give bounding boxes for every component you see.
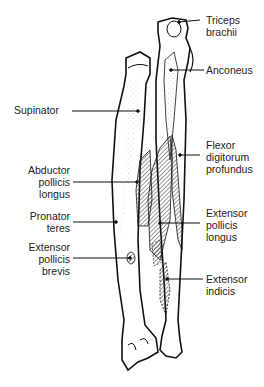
label-line: profundus bbox=[206, 163, 253, 175]
label-extensor-indicis: Extensor indicis bbox=[206, 273, 247, 297]
label-line: longus bbox=[28, 188, 70, 200]
label-line: Flexor bbox=[206, 139, 253, 151]
label-line: Supinator bbox=[14, 104, 59, 116]
label-line: Extensor bbox=[206, 207, 247, 219]
label-line: longus bbox=[206, 231, 247, 243]
label-extensor-pollicis-longus: Extensor pollicis longus bbox=[206, 207, 247, 243]
label-line: teres bbox=[30, 222, 70, 234]
label-line: Anconeus bbox=[206, 64, 253, 76]
label-abductor-pollicis-longus: Abductor pollicis longus bbox=[28, 164, 70, 200]
label-line: brevis bbox=[29, 265, 70, 277]
label-line: indicis bbox=[206, 285, 247, 297]
label-pronator-teres: Pronator teres bbox=[30, 210, 70, 234]
label-anconeus: Anconeus bbox=[206, 64, 253, 76]
label-line: digitorum bbox=[206, 151, 253, 163]
label-line: Extensor bbox=[29, 241, 70, 253]
label-triceps-brachii: Triceps brachii bbox=[206, 14, 240, 38]
label-line: pollicis bbox=[29, 253, 70, 265]
label-line: brachii bbox=[206, 26, 240, 38]
label-supinator: Supinator bbox=[14, 104, 59, 116]
label-flexor-digitorum-profundus: Flexor digitorum profundus bbox=[206, 139, 253, 175]
label-line: Pronator bbox=[30, 210, 70, 222]
label-line: Abductor bbox=[28, 164, 70, 176]
label-line: pollicis bbox=[28, 176, 70, 188]
label-line: pollicis bbox=[206, 219, 247, 231]
label-line: Triceps bbox=[206, 14, 240, 26]
label-line: Extensor bbox=[206, 273, 247, 285]
label-extensor-pollicis-brevis: Extensor pollicis brevis bbox=[29, 241, 70, 277]
